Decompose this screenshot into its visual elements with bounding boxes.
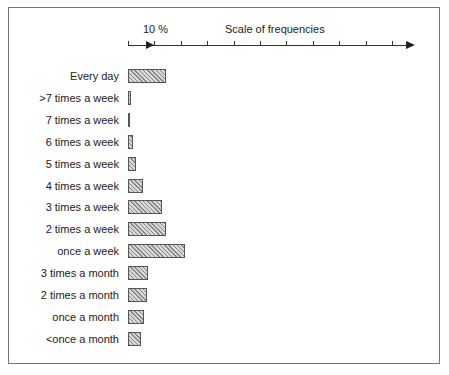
category-label: 4 times a week [46,180,119,192]
category-label: 3 times a week [46,201,119,213]
axis-line [128,45,412,46]
bar-row: once a month [0,310,449,326]
category-label: once a month [52,311,119,323]
category-label: 7 times a week [46,114,119,126]
bar-row: 4 times a week [0,179,449,195]
bar [128,222,166,236]
axis-tick [392,41,393,46]
category-label: Every day [70,70,119,82]
axis-tick [207,41,208,46]
bar-row: once a week [0,244,449,260]
category-label: 5 times a week [46,158,119,170]
bar [128,91,131,105]
ten-percent-arrow-icon [146,41,154,49]
bar [128,244,185,258]
bar [128,310,144,324]
category-label: 2 times a week [46,223,119,235]
axis-tick [286,41,287,46]
category-label: once a week [57,245,119,257]
axis-tick [154,41,155,46]
bar-row: Every day [0,69,449,85]
bar-row: 7 times a week [0,113,449,129]
category-label: 3 times a month [41,267,119,279]
bar [128,69,166,83]
axis-tick [260,41,261,46]
scale-title: Scale of frequencies [225,23,325,35]
bar [128,332,141,346]
axis-tick [181,41,182,46]
ten-percent-label: 10 % [143,23,168,35]
axis-tick [366,41,367,46]
bar-row: >7 times a week [0,91,449,107]
bar [128,157,136,171]
axis-tick [234,41,235,46]
bar [128,266,148,280]
bar-row: 3 times a month [0,266,449,282]
bar-row: 2 times a month [0,288,449,304]
bar [128,179,143,193]
category-label: 6 times a week [46,136,119,148]
bar-row: 2 times a week [0,222,449,238]
axis-arrow-icon [406,41,415,49]
bar [128,135,133,149]
bar [128,200,162,214]
bar-row: 6 times a week [0,135,449,151]
category-label: <once a month [46,333,119,345]
bar-row: 5 times a week [0,157,449,173]
axis-tick [128,41,129,46]
category-label: >7 times a week [39,92,119,104]
bar [128,113,130,127]
category-label: 2 times a month [41,289,119,301]
axis-tick [313,41,314,46]
bar [128,288,147,302]
axis-tick [339,41,340,46]
bar-row: 3 times a week [0,200,449,216]
bar-row: <once a month [0,332,449,348]
